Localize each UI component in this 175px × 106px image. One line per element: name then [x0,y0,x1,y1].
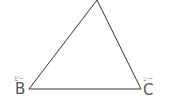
vertex-c-label: C [143,83,153,98]
triangle-abc [29,0,141,89]
vertex-b-label: B [15,82,25,97]
